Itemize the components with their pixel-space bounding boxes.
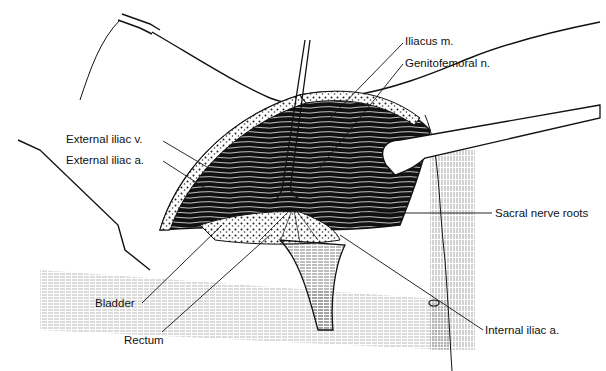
anatomy-drawing: [0, 0, 606, 371]
label-genitofemoral-nerve: Genitofemoral n.: [405, 57, 490, 70]
label-bladder: Bladder: [95, 297, 135, 310]
label-external-iliac-vein: External iliac v.: [66, 133, 142, 146]
surgical-illustration: Iliacus m. Genitofemoral n. External ili…: [0, 0, 606, 371]
label-external-iliac-artery: External iliac a.: [66, 154, 144, 167]
lower-shading: [40, 270, 450, 350]
label-sacral-nerve-roots: Sacral nerve roots: [495, 207, 588, 220]
label-internal-iliac-artery: Internal iliac a.: [485, 324, 559, 337]
label-rectum: Rectum: [124, 334, 164, 347]
label-iliacus-muscle: Iliacus m.: [405, 35, 454, 48]
